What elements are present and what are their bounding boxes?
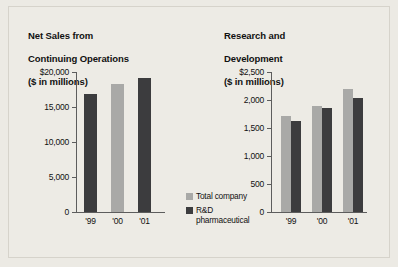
net-sales-bar-99 <box>84 94 97 212</box>
rd-ytick-500 <box>267 184 271 185</box>
rd-bar-rd-pharmaceutical-99 <box>291 121 301 212</box>
rd-ytick-0 <box>267 212 271 213</box>
chart-rd-plot: $2,500 2,000 1,500 1,000 500 0 '99 '00 '… <box>199 0 398 267</box>
net-sales-x-axis <box>76 212 165 213</box>
net-sales-ytick-label-5000: 5,000 <box>8 172 69 182</box>
rd-x-axis <box>271 212 367 213</box>
rd-ytick-label-2500: $2,500 <box>201 67 264 77</box>
rd-ytick-label-2000: 2,000 <box>201 95 264 105</box>
figure-canvas: Net Sales from Continuing Operations ($ … <box>0 0 398 267</box>
net-sales-ytick-10000 <box>72 142 76 143</box>
net-sales-ytick-20000 <box>72 72 76 73</box>
rd-bar-rd-pharmaceutical-00 <box>322 108 332 212</box>
net-sales-xtick-label-00: '00 <box>107 216 128 226</box>
chart-net-sales-plot: $20,000 15,000 10,000 5,000 0 '99 '00 '0… <box>0 0 199 267</box>
net-sales-ytick-label-20000: $20,000 <box>8 67 69 77</box>
rd-bar-total-company-01 <box>343 89 353 212</box>
chart-net-sales: Net Sales from Continuing Operations ($ … <box>0 0 199 267</box>
net-sales-y-axis <box>76 72 77 213</box>
net-sales-bar-00 <box>111 84 124 212</box>
net-sales-ytick-0 <box>72 212 76 213</box>
rd-ytick-1500 <box>267 128 271 129</box>
net-sales-ytick-label-15000: 15,000 <box>8 102 69 112</box>
net-sales-ytick-5000 <box>72 177 76 178</box>
net-sales-bar-01 <box>138 78 151 212</box>
rd-y-axis <box>271 72 272 213</box>
rd-ytick-label-0: 0 <box>201 207 264 217</box>
net-sales-ytick-label-0: 0 <box>8 207 69 217</box>
rd-ytick-label-500: 500 <box>201 179 264 189</box>
rd-ytick-label-1500: 1,500 <box>201 123 264 133</box>
net-sales-xtick-label-99: '99 <box>80 216 101 226</box>
legend-swatch-total-company-icon <box>186 193 193 200</box>
rd-xtick-label-01: '01 <box>342 216 364 226</box>
rd-xtick-label-99: '99 <box>280 216 302 226</box>
rd-bar-rd-pharmaceutical-01 <box>353 98 363 212</box>
rd-bar-total-company-00 <box>312 106 322 212</box>
net-sales-ytick-15000 <box>72 107 76 108</box>
rd-ytick-label-1000: 1,000 <box>201 151 264 161</box>
rd-ytick-2000 <box>267 100 271 101</box>
rd-xtick-label-00: '00 <box>311 216 333 226</box>
chart-research-and-development: Research and Development ($ in millions)… <box>199 0 398 267</box>
rd-ytick-1000 <box>267 156 271 157</box>
legend-swatch-rd-pharmaceutical-icon <box>186 207 193 214</box>
net-sales-xtick-label-01: '01 <box>134 216 155 226</box>
rd-ytick-2500 <box>267 72 271 73</box>
rd-bar-total-company-99 <box>281 116 291 212</box>
net-sales-ytick-label-10000: 10,000 <box>8 137 69 147</box>
